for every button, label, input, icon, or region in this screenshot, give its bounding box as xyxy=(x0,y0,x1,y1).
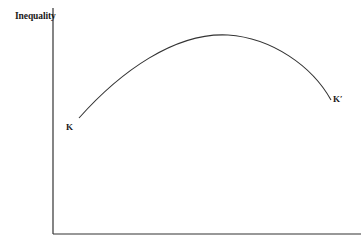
inequality-curve-chart: Inequality K K′ xyxy=(0,0,361,246)
curve-start-label: K xyxy=(66,122,73,132)
kk-curve xyxy=(79,35,331,118)
curve-end-label: K′ xyxy=(333,94,343,104)
chart-canvas xyxy=(0,0,361,246)
y-axis-label: Inequality xyxy=(15,11,56,21)
